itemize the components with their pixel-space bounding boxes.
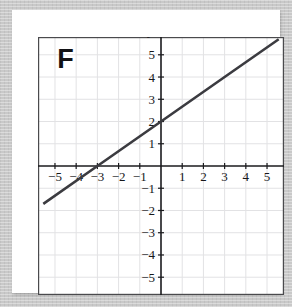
x-tick-label: −3 — [90, 169, 104, 184]
graph-screenshot: −5−4−3−2−112345−5−4−3−2−112345 xy F — [0, 0, 292, 307]
x-tick-label: 5 — [264, 169, 271, 184]
x-tick-label: 2 — [200, 169, 207, 184]
y-tick-label: 5 — [149, 47, 156, 62]
y-tick-label: −1 — [141, 181, 155, 196]
coordinate-plane: −5−4−3−2−112345−5−4−3−2−112345 xy F — [38, 37, 284, 295]
x-tick-label: 4 — [243, 169, 250, 184]
y-tick-label: 1 — [149, 136, 156, 151]
y-tick-label: −2 — [141, 203, 155, 218]
x-tick-label: 3 — [221, 169, 228, 184]
y-tick-label: −4 — [141, 247, 155, 262]
y-axis-name: y — [146, 37, 154, 38]
y-tick-label: −3 — [141, 225, 155, 240]
y-tick-label: −5 — [141, 270, 155, 285]
coordinate-plane-svg: −5−4−3−2−112345−5−4−3−2−112345 xy F — [38, 37, 284, 295]
figure-letter-label: F — [57, 44, 74, 74]
x-tick-label: −5 — [48, 169, 62, 184]
y-tick-label: 3 — [149, 92, 156, 107]
y-tick-label: 4 — [149, 70, 156, 85]
x-tick-label: 1 — [179, 169, 186, 184]
graph-card: −5−4−3−2−112345−5−4−3−2−112345 xy F — [12, 10, 280, 293]
x-tick-label: −2 — [112, 169, 126, 184]
